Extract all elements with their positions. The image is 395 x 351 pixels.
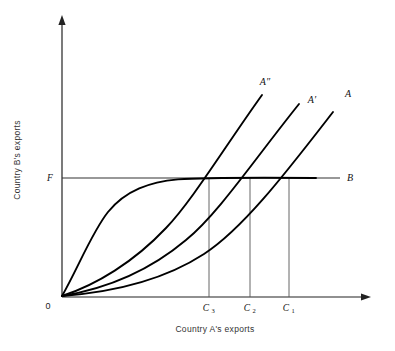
figure-background xyxy=(0,0,395,351)
curve-label-a-double-prime: A″ xyxy=(259,76,271,87)
axis-mark-c2-letter: C xyxy=(244,303,251,313)
curve-label-a-prime: A′ xyxy=(307,94,317,105)
origin-label: 0 xyxy=(45,301,50,311)
axis-mark-f: F xyxy=(46,173,53,183)
x-axis-title: Country A's exports xyxy=(175,324,254,334)
curve-label-b: B xyxy=(347,172,353,183)
axis-mark-c1-letter: C xyxy=(283,303,290,313)
curve-label-a: A xyxy=(344,88,352,99)
axis-mark-c1-subscript: 1 xyxy=(291,307,294,314)
axis-mark-c3-letter: C xyxy=(203,303,210,313)
axis-mark-c2-subscript: 2 xyxy=(252,307,255,314)
axis-mark-c3-subscript: 3 xyxy=(211,307,214,314)
offer-curve-figure: A″ A′ A B F 0 C 3 C 2 C 1 Country A's ex… xyxy=(0,0,395,351)
y-axis-title: Country B's exports xyxy=(12,120,22,200)
